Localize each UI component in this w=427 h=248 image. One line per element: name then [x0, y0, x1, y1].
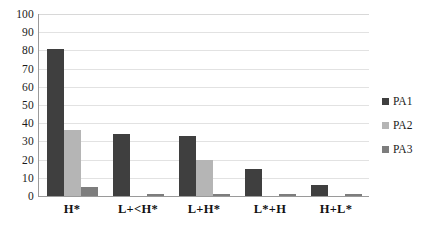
bar-chart: 1009080706050403020100 H*L+<H*L+H*L*+HH+…: [0, 0, 427, 248]
y-axis-tick-label: 20: [22, 154, 34, 166]
bar-pa3: [213, 194, 230, 196]
legend-item-label: PA1: [393, 96, 412, 107]
square-swatch-icon: [382, 146, 389, 153]
x-axis-tick-label: H*: [39, 202, 105, 217]
bar-groups: [39, 14, 369, 196]
bar-pa3: [279, 194, 296, 196]
y-axis-tick-label: 0: [28, 190, 34, 202]
bar-pa2: [64, 130, 81, 196]
legend-item: PA2: [382, 120, 412, 131]
square-swatch-icon: [382, 98, 389, 105]
y-axis-tick-label: 30: [22, 135, 34, 147]
bar-pa1: [47, 49, 64, 196]
bar-group: [105, 14, 171, 196]
bar-pa3: [345, 194, 362, 196]
x-axis-tick-label: L+<H*: [105, 202, 171, 217]
y-axis-tick-label: 100: [16, 8, 34, 20]
y-axis-tick-label: 70: [22, 63, 34, 75]
bar-pa1: [311, 185, 328, 196]
x-axis-tick-label: L+H*: [171, 202, 237, 217]
bar-group: [303, 14, 369, 196]
legend-item-label: PA2: [393, 120, 412, 131]
legend: PA1PA2PA3: [382, 96, 412, 155]
y-axis-tick-label: 90: [22, 26, 34, 38]
bar-pa1: [245, 169, 262, 196]
bar-group: [237, 14, 303, 196]
bar-pa2: [196, 160, 213, 196]
y-axis-tick-label: 50: [22, 99, 34, 111]
bar-pa1: [179, 136, 196, 196]
x-axis: H*L+<H*L+H*L*+HH+L*: [39, 202, 369, 217]
y-axis: 1009080706050403020100: [0, 8, 36, 200]
bar-pa3: [81, 187, 98, 196]
legend-item: PA3: [382, 144, 412, 155]
legend-item-label: PA3: [393, 144, 412, 155]
x-axis-tick-label: H+L*: [303, 202, 369, 217]
bar-pa3: [147, 194, 164, 196]
bar-group: [171, 14, 237, 196]
y-axis-tick-label: 40: [22, 117, 34, 129]
y-axis-tick-label: 10: [22, 172, 34, 184]
square-swatch-icon: [382, 122, 389, 129]
x-axis-tick-label: L*+H: [237, 202, 303, 217]
bar-group: [39, 14, 105, 196]
bar-pa1: [113, 134, 130, 196]
y-axis-tick-label: 80: [22, 44, 34, 56]
plot-area: [38, 14, 369, 197]
legend-item: PA1: [382, 96, 412, 107]
y-axis-tick-label: 60: [22, 81, 34, 93]
